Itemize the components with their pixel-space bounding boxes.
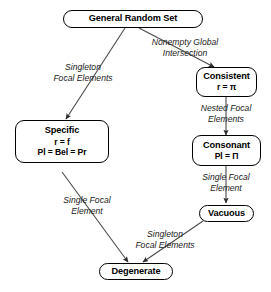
node-specific-line-1: Specific <box>45 125 79 136</box>
edge-label-singleton-focal-elements-bottom: Singleton Focal Elements <box>113 229 217 251</box>
edge-label-line-2: Element <box>41 206 133 217</box>
edge-label-nested-focal-elements: Nested Focal Elements <box>182 103 270 125</box>
edge-label-singleton-focal-elements-left: Singleton Focal Elements <box>27 62 139 84</box>
edge-label-line-1: Singleton <box>27 62 139 73</box>
edge-label-line-2: Element <box>182 183 270 194</box>
node-consistent[interactable]: Consistent r = π <box>196 67 257 97</box>
node-consistent-line-1: Consistent <box>203 71 249 82</box>
node-general-random-set-line-1: General Random Set <box>89 13 178 24</box>
node-consonant-line-1: Consonant <box>203 140 250 151</box>
node-specific[interactable]: Specific r = f Pl = Bel = Pr <box>15 120 109 163</box>
edge-label-line-2: Elements <box>182 114 270 125</box>
node-vacuous-line-1: Vacuous <box>208 208 245 219</box>
edge-label-line-2: Focal Elements <box>27 73 139 84</box>
edge-label-line-1: Single Focal <box>41 195 133 206</box>
edge-label-single-focal-element-left: Single Focal Element <box>41 195 133 217</box>
edge-label-single-focal-element-right: Single Focal Element <box>182 172 270 194</box>
node-degenerate-line-1: Degenerate <box>111 266 160 277</box>
node-consonant-line-2: Pl = Π <box>215 151 239 161</box>
edge-label-line-1: Nonempty Global <box>128 37 242 48</box>
node-consistent-line-2: r = π <box>217 82 236 92</box>
node-specific-line-2: r = f <box>54 137 70 147</box>
node-degenerate[interactable]: Degenerate <box>99 263 173 280</box>
edge-label-line-2: Intersection <box>128 48 242 59</box>
edge-label-line-1: Nested Focal <box>182 103 270 114</box>
node-consonant[interactable]: Consonant Pl = Π <box>192 135 261 166</box>
node-specific-line-3: Pl = Bel = Pr <box>38 147 87 157</box>
edge-label-line-1: Single Focal <box>182 172 270 183</box>
edge-label-line-1: Singleton <box>113 229 217 240</box>
edge-label-nonempty-global-intersection: Nonempty Global Intersection <box>128 37 242 59</box>
node-vacuous[interactable]: Vacuous <box>199 205 254 222</box>
diagram-canvas: General Random Set Consistent r = π Spec… <box>0 0 271 292</box>
node-general-random-set[interactable]: General Random Set <box>63 10 203 28</box>
edge-label-line-2: Focal Elements <box>113 240 217 251</box>
